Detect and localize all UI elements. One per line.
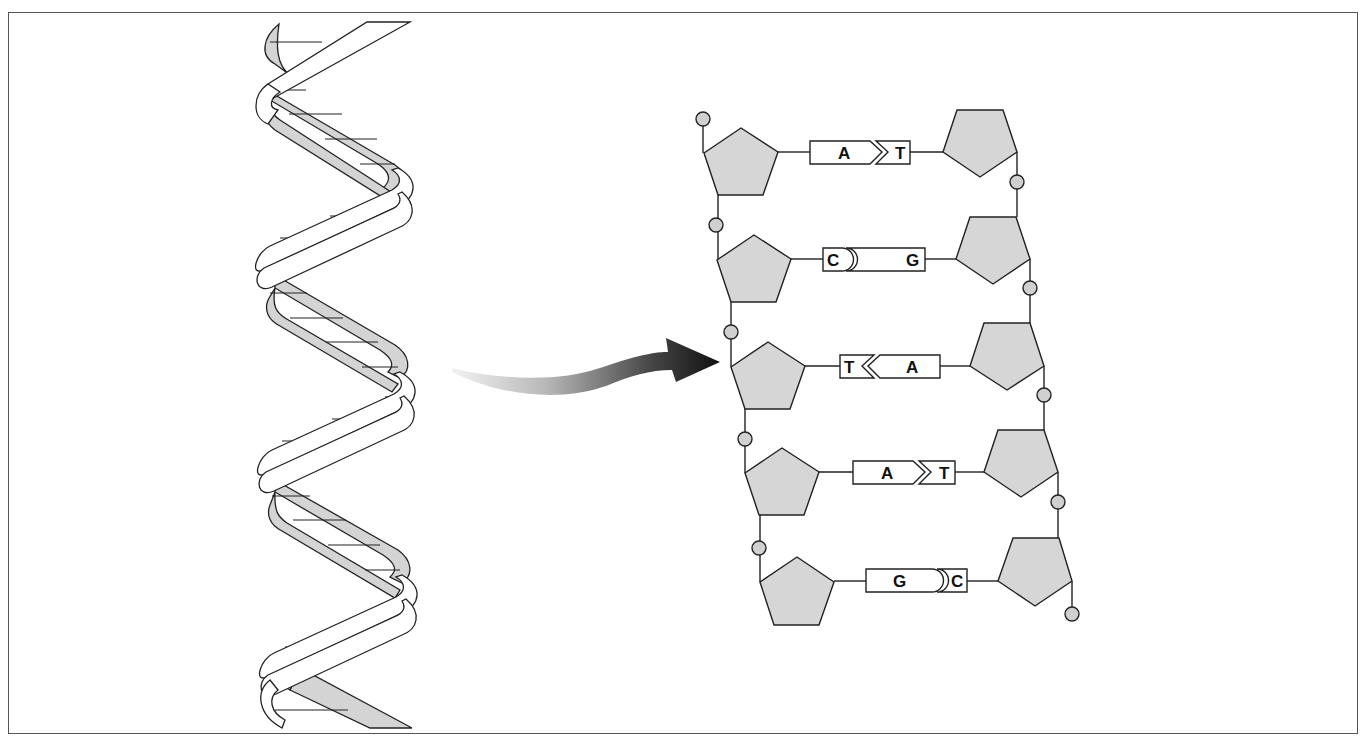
phosphate-circle (1037, 388, 1051, 402)
double-helix (256, 22, 417, 728)
sugar-pentagon (984, 430, 1058, 497)
sugar-pentagon (717, 235, 791, 302)
base-pair-ladder: A T C G T A A T G C (696, 110, 1079, 625)
sugar-pentagon (998, 538, 1072, 606)
sugar-pentagon (956, 217, 1030, 284)
sugar-pentagon (943, 110, 1017, 177)
sugar-pentagon (760, 557, 834, 625)
base-label-right: C (951, 572, 963, 591)
sugar-pentagon (970, 323, 1044, 390)
base-label-right: G (906, 251, 919, 270)
sugar-pentagon (704, 128, 778, 195)
base-label-left: G (893, 572, 906, 591)
base-pair-row-2: C G (823, 248, 925, 271)
left-sugars (704, 128, 834, 625)
right-sugars (943, 110, 1072, 606)
unwinding-arrow (452, 338, 720, 395)
phosphate-circle (738, 432, 752, 446)
base-pair-row-1: A T (810, 141, 910, 164)
base-label-left: A (881, 464, 893, 483)
phosphate-circle (1065, 607, 1079, 621)
base-label-left: T (844, 358, 855, 377)
phosphate-circle (752, 541, 766, 555)
base-pair-row-3: T A (840, 355, 940, 378)
base-pair-row-5: G C (866, 569, 967, 592)
phosphate-circle (1051, 495, 1065, 509)
sugar-pentagon (731, 342, 805, 409)
phosphate-circle (709, 218, 723, 232)
sugar-pentagon (745, 448, 819, 515)
base-label-right: T (895, 144, 906, 163)
base-label-right: A (906, 358, 918, 377)
dna-diagram: A T C G T A A T G C (0, 0, 1366, 738)
phosphate-circle (696, 112, 710, 126)
base-label-left: A (838, 144, 850, 163)
base-block-right (868, 355, 940, 378)
phosphate-circle (1010, 175, 1024, 189)
phosphate-circle (1023, 281, 1037, 295)
phosphate-circle (724, 325, 738, 339)
base-label-right: T (939, 464, 950, 483)
base-pair-row-4: A T (853, 461, 955, 484)
base-label-left: C (827, 251, 839, 270)
